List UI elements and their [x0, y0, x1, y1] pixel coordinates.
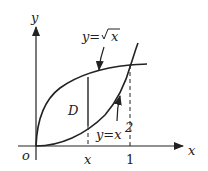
svg-text:2: 2 — [124, 120, 133, 135]
svg-text:y=: y= — [81, 29, 100, 44]
tick-one-label: 1 — [126, 152, 134, 167]
region-diagram: y x o x 1 D y= x y=x 2 — [0, 0, 208, 171]
svg-text:y=x: y=x — [95, 127, 122, 142]
tick-x-label: x — [84, 152, 92, 167]
svg-text:x: x — [111, 29, 119, 44]
label-sqrt: y= x — [81, 29, 120, 44]
origin-label: o — [22, 148, 30, 163]
axis-y-label: y — [30, 10, 39, 25]
pointer-sqrt — [99, 47, 104, 70]
pointer-square — [117, 96, 120, 121]
label-square: y=x 2 — [95, 120, 133, 142]
region-label: D — [67, 103, 79, 118]
axis-x-label: x — [188, 143, 196, 158]
curve-square — [36, 43, 138, 146]
